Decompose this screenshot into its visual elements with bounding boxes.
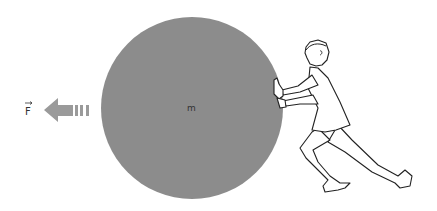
person-arm-lower — [283, 95, 318, 106]
force-arrow-dash — [75, 105, 78, 116]
person-pushing — [274, 40, 412, 192]
force-arrow-dash — [86, 105, 89, 116]
person-back-leg — [328, 125, 412, 188]
force-label: F — [25, 102, 32, 118]
force-arrow — [44, 98, 89, 122]
force-arrow-head — [44, 98, 73, 122]
person-hand-upper — [274, 78, 283, 99]
mass-label: m — [187, 103, 196, 113]
force-label-text: F — [25, 106, 31, 117]
force-diagram: F m — [0, 0, 437, 211]
force-arrow-dash — [80, 105, 83, 116]
